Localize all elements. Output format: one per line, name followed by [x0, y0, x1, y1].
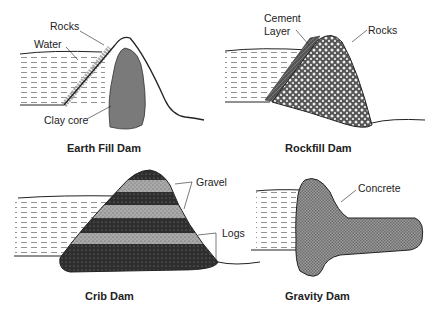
title-rockfill-dam: Rockfill Dam	[285, 142, 352, 154]
label-logs: Logs	[222, 227, 245, 239]
dam-types-diagram: Rocks Water Clay core Earth Fill Dam Cem…	[0, 0, 438, 313]
label-layer: Layer	[264, 25, 291, 37]
title-crib-dam: Crib Dam	[85, 290, 134, 302]
rockfill-dam: Cement Layer Rocks Rockfill Dam	[225, 12, 425, 154]
label-cement: Cement	[264, 12, 301, 24]
title-earth-fill-dam: Earth Fill Dam	[67, 142, 141, 154]
label-rocks-rockfill: Rocks	[368, 24, 397, 36]
earth-fill-dam: Rocks Water Clay core Earth Fill Dam	[20, 20, 204, 154]
crib-dam: Gravel Logs Crib Dam	[14, 165, 260, 302]
label-concrete: Concrete	[358, 182, 401, 194]
label-gravel: Gravel	[196, 176, 227, 188]
gravity-dam: Concrete Gravity Dam	[251, 179, 423, 303]
label-water: Water	[34, 38, 62, 50]
label-clay-core: Clay core	[44, 114, 89, 126]
title-gravity-dam: Gravity Dam	[285, 290, 350, 302]
label-rocks-earth: Rocks	[50, 20, 79, 32]
clay-core	[109, 48, 145, 129]
